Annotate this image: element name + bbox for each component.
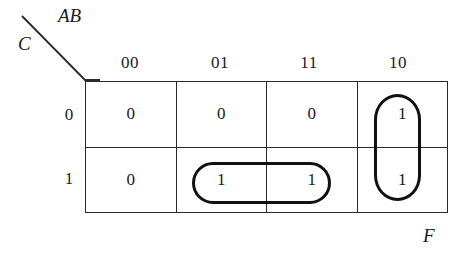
row-header-0: 0 <box>56 106 82 123</box>
cell-value: 1 <box>217 171 226 188</box>
kmap-cell-grid: 0 0 0 1 0 1 1 1 <box>85 81 448 213</box>
cell-r1c3: 1 <box>357 147 448 213</box>
output-function-label: F <box>423 226 435 245</box>
axis-label-ab: AB <box>58 6 81 25</box>
cell-value: 1 <box>398 171 407 188</box>
cell-r0c3: 1 <box>357 82 448 148</box>
cell-value: 0 <box>217 105 226 122</box>
axis-corner-block: AB C <box>10 2 100 86</box>
karnaugh-map-diagram: AB C 00 01 11 10 0 1 0 0 0 1 0 1 1 1 F <box>0 0 468 268</box>
cell-r1c2: 1 <box>267 147 358 213</box>
table-row: 0 0 0 1 <box>86 82 448 148</box>
cell-r1c0: 0 <box>86 147 177 213</box>
column-header-1: 01 <box>175 54 265 71</box>
column-header-3: 10 <box>353 54 443 71</box>
cell-value: 0 <box>127 171 136 188</box>
cell-r0c0: 0 <box>86 82 177 148</box>
cell-r0c2: 0 <box>267 82 358 148</box>
column-header-0: 00 <box>85 54 175 71</box>
table-row: 0 1 1 1 <box>86 147 448 213</box>
column-header-2: 11 <box>264 54 354 71</box>
cell-r0c1: 0 <box>176 82 267 148</box>
axis-label-c: C <box>18 34 31 53</box>
cell-r1c1: 1 <box>176 147 267 213</box>
cell-value: 0 <box>127 105 136 122</box>
cell-value: 1 <box>398 105 407 122</box>
cell-value: 1 <box>308 171 317 188</box>
cell-value: 0 <box>308 105 317 122</box>
row-header-1: 1 <box>56 170 82 187</box>
